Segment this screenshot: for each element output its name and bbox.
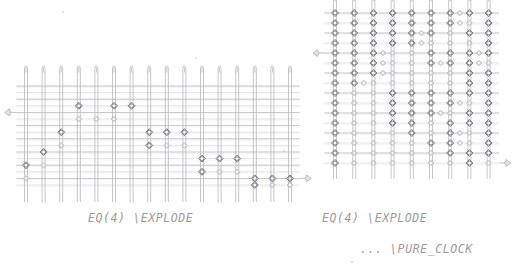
gate-marker-large (428, 90, 435, 97)
gate-marker-large (447, 100, 454, 107)
gate-marker-large (370, 60, 377, 67)
gate-marker-small (351, 100, 357, 106)
gate-marker-small (351, 90, 357, 96)
gate-marker-large (332, 60, 339, 67)
gate-diamond (371, 110, 377, 116)
gate-marker-small (409, 70, 415, 76)
gate-marker-small (351, 150, 357, 156)
gate-diamond (428, 140, 435, 147)
gate-marker-large (466, 70, 473, 77)
gate-diamond (251, 175, 258, 182)
gate-marker-large (370, 10, 377, 17)
gate-diamond (447, 140, 454, 147)
gate-marker-small (270, 182, 276, 188)
gate-marker-small (486, 160, 492, 166)
gate-diamond (332, 40, 339, 47)
gate-marker-small (467, 140, 473, 146)
gate-diamond (408, 90, 415, 97)
horizontal-wires (16, 86, 299, 186)
gate-diamond (466, 120, 473, 127)
gate-diamond (389, 100, 396, 107)
gate-marker-small (457, 140, 463, 146)
gate-diamond (447, 30, 453, 36)
gate-diamond (371, 100, 377, 106)
gate-marker-small (371, 150, 377, 156)
gate-marker-large (234, 155, 241, 162)
gate-diamond (332, 100, 339, 107)
gate-marker-large (351, 40, 358, 47)
gate-marker-large (332, 50, 339, 57)
gate-diamond (485, 100, 492, 107)
gate-marker-large (389, 40, 396, 47)
gate-marker-large (370, 20, 377, 27)
gate-diamond (438, 110, 444, 116)
gate-diamond (438, 60, 444, 66)
gate-marker-small (380, 70, 386, 76)
diagram-canvas: EQ(4) \EXPLODE EQ(4) \EXPLODE ... \PURE_… (0, 0, 523, 275)
gate-diamond (332, 30, 339, 37)
gate-marker-large (466, 60, 473, 67)
gate-marker-large (351, 80, 358, 87)
gate-diamond (370, 30, 377, 37)
gate-diamond (467, 40, 473, 46)
gate-marker-small (351, 110, 357, 116)
gate-marker-large (332, 110, 339, 117)
input-marker (5, 109, 17, 116)
gate-marker-large (216, 155, 223, 162)
gate-diamond (351, 130, 357, 136)
gate-diamond (371, 120, 377, 126)
gate-diamond (389, 40, 396, 47)
gate-diamond (485, 90, 492, 97)
gate-marker-small (467, 100, 473, 106)
gate-marker-small (390, 160, 396, 166)
gate-marker-small (23, 176, 29, 182)
gate-diamond (332, 90, 339, 97)
gate-diamond (75, 102, 82, 109)
gate-marker-small (351, 130, 357, 136)
gate-diamond (351, 30, 358, 37)
gate-marker-large (447, 10, 454, 17)
gate-diamond (351, 70, 358, 77)
gate-diamond (428, 40, 434, 46)
left-caption-line-1: EQ(4) \EXPLODE (88, 211, 193, 225)
gate-marker-large (332, 120, 339, 127)
gate-diamond (428, 30, 435, 37)
gate-marker-large (111, 102, 118, 109)
scan-specks (62, 11, 353, 263)
gate-marker-large (408, 120, 415, 127)
gate-marker-small (467, 130, 473, 136)
gate-diamond (409, 60, 415, 66)
gate-diamond (486, 60, 492, 66)
gate-marker-large (466, 80, 473, 87)
gate-diamond (419, 40, 425, 46)
gate-marker-large (428, 110, 435, 117)
gate-diamond (428, 10, 435, 17)
gate-marker-small (287, 182, 293, 188)
gate-marker-large (163, 129, 170, 136)
gate-marker-large (332, 90, 339, 97)
gate-diamond (476, 60, 482, 66)
gate-diamond (351, 100, 357, 106)
gate-diamond (389, 20, 396, 27)
gate-marker-large (408, 10, 415, 17)
gate-diamond (234, 155, 241, 162)
captions: EQ(4) \EXPLODE EQ(4) \EXPLODE ... \PURE_… (88, 211, 473, 256)
gate-marker-small (217, 169, 223, 175)
gate-marker-small (409, 80, 415, 86)
gate-diamond (370, 50, 377, 57)
gate-diamond (332, 10, 339, 17)
gate-marker-small (409, 140, 415, 146)
gate-marker-small (390, 150, 396, 156)
gate-marker-small (428, 80, 434, 86)
gate-diamond (216, 155, 223, 162)
gate-marker-small (447, 80, 453, 86)
gate-diamond (428, 150, 434, 156)
gate-diamond (485, 50, 492, 57)
gate-diamond (287, 182, 293, 188)
gate-diamond (332, 60, 339, 67)
gate-marker-large (75, 102, 82, 109)
gate-marker-small (457, 10, 463, 16)
gate-diamond (40, 149, 47, 156)
gate-diamond (332, 80, 339, 87)
gate-diamond (467, 20, 473, 26)
